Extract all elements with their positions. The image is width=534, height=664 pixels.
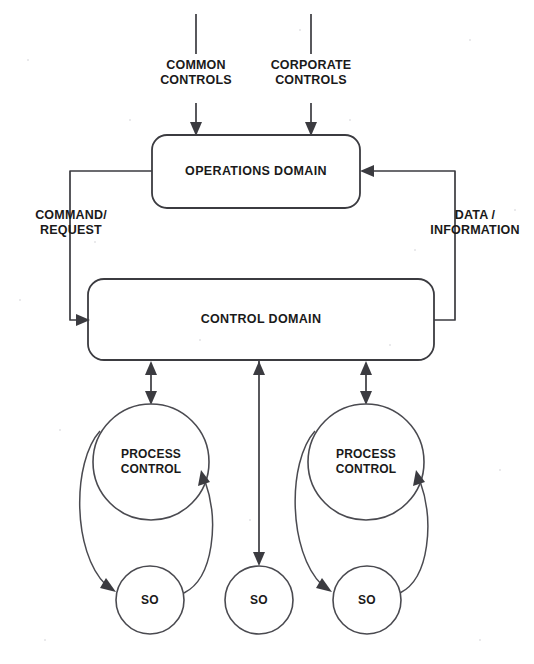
control-to-so-middle-arrow bbox=[253, 361, 265, 566]
label-common-controls: COMMON CONTROLS bbox=[146, 58, 246, 89]
label-process-control-left: PROCESS CONTROL bbox=[101, 447, 201, 476]
label-process-control-right: PROCESS CONTROL bbox=[316, 447, 416, 476]
label-so-left: SO bbox=[120, 593, 180, 608]
control-to-process-left-arrow bbox=[145, 361, 157, 405]
label-corporate-controls: CORPORATE CONTROLS bbox=[253, 58, 369, 89]
control-to-process-right-arrow bbox=[360, 361, 372, 405]
diagram-vector-layer bbox=[0, 0, 534, 664]
label-command-request: COMMAND/ REQUEST bbox=[12, 208, 130, 239]
label-data-information: DATA / INFORMATION bbox=[416, 208, 534, 239]
label-so-right: SO bbox=[337, 593, 397, 608]
diagram-canvas: COMMON CONTROLS CORPORATE CONTROLS OPERA… bbox=[0, 0, 534, 664]
label-control-domain: CONTROL DOMAIN bbox=[88, 312, 434, 327]
label-so-middle: SO bbox=[229, 593, 289, 608]
label-operations-domain: OPERATIONS DOMAIN bbox=[152, 164, 360, 179]
